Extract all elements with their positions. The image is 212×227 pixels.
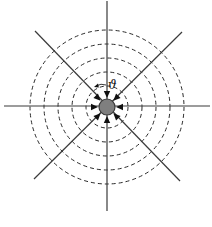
center-charge-disc [99,99,115,115]
inward-arrow-icon [104,91,110,98]
inward-arrow-icon [116,104,123,110]
angle-theta-label: ϑ [108,78,117,92]
inward-arrow-icon [104,116,110,123]
inward-arrow-icon [113,113,120,120]
radial-field-diagram: ϑ [0,0,212,227]
inward-arrow-icon [91,104,98,110]
arc-arrowhead-icon [94,84,99,88]
